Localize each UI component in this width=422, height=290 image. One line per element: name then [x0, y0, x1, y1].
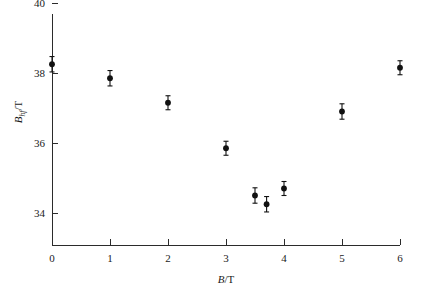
x-tick-label-4: 4 [281, 252, 287, 264]
y-axis-title: Bhf/T [12, 101, 27, 124]
marker-circle [49, 61, 55, 67]
scatter-plot: 012345634363840 B/TBhf/T [0, 0, 422, 290]
data-point-2 [165, 96, 171, 110]
y-tick-label-34: 34 [34, 207, 46, 219]
axis-titles-group: B/TBhf/T [12, 101, 235, 285]
y-tick-label-38: 38 [34, 67, 46, 79]
x-tick-label-5: 5 [339, 252, 345, 264]
marker-circle [223, 145, 229, 151]
marker-circle [165, 100, 171, 106]
data-points-group [49, 57, 403, 212]
figure-container: 012345634363840 B/TBhf/T [0, 0, 422, 290]
data-point-8 [397, 61, 403, 75]
data-point-1 [107, 71, 113, 86]
data-point-3 [223, 141, 229, 155]
x-axis-title: B/T [218, 273, 235, 285]
marker-circle [339, 109, 345, 115]
tick-marks-group [52, 3, 400, 245]
data-point-6 [281, 182, 287, 196]
x-tick-label-0: 0 [49, 252, 55, 264]
tick-labels-group: 012345634363840 [34, 0, 403, 264]
x-tick-label-6: 6 [397, 252, 403, 264]
data-point-0 [49, 57, 55, 72]
marker-circle [107, 75, 113, 81]
data-point-4 [252, 188, 258, 203]
marker-circle [264, 201, 270, 207]
data-point-7 [339, 104, 345, 119]
x-tick-label-2: 2 [165, 252, 171, 264]
y-tick-label-40: 40 [34, 0, 46, 9]
marker-circle [281, 186, 287, 192]
x-tick-label-3: 3 [223, 252, 229, 264]
axes-group [52, 14, 400, 245]
marker-circle [252, 193, 258, 199]
marker-circle [397, 65, 403, 71]
data-point-5 [264, 197, 270, 212]
x-tick-label-1: 1 [107, 252, 113, 264]
y-tick-label-36: 36 [34, 137, 46, 149]
